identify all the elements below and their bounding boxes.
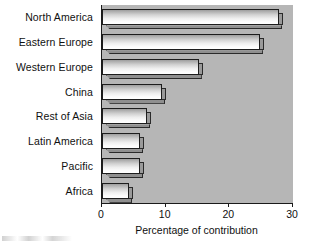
plot-area (101, 5, 293, 203)
category-label-rest-of-asia: Rest of Asia (0, 104, 97, 129)
category-label-latin-america: Latin America (0, 129, 97, 154)
category-label-china: China (0, 79, 97, 104)
bar-eastern-europe (102, 34, 260, 50)
bar-slot (102, 104, 293, 129)
bar-africa (102, 183, 129, 199)
category-label-eastern-europe: Eastern Europe (0, 30, 97, 55)
bar-slot (102, 5, 293, 30)
x-tick-0 (101, 203, 102, 207)
category-label-pacific: Pacific (0, 154, 97, 179)
bar-china (102, 84, 162, 100)
bar-slot (102, 178, 293, 203)
x-tick-20 (228, 203, 229, 207)
category-label-north-america: North America (0, 5, 97, 30)
bar-western-europe (102, 59, 199, 75)
bar-slot (102, 55, 293, 80)
x-tick-10 (165, 203, 166, 207)
chart-figure: North America Eastern Europe Western Eur… (0, 0, 309, 243)
bar-pacific (102, 158, 140, 174)
bar-latin-america (102, 133, 140, 149)
x-tick-label-20: 20 (222, 208, 234, 220)
bar-north-america (102, 9, 279, 25)
bar-series (102, 5, 293, 203)
bar-rest-of-asia (102, 108, 147, 124)
category-label-western-europe: Western Europe (0, 55, 97, 80)
bar-slot (102, 79, 293, 104)
x-tick-label-0: 0 (98, 208, 104, 220)
scan-artifact (2, 236, 72, 241)
category-axis-labels: North America Eastern Europe Western Eur… (0, 5, 97, 203)
x-axis-title: Percentage of contribution (101, 224, 292, 236)
bar-slot (102, 30, 293, 55)
x-tick-30 (292, 203, 293, 207)
x-axis-line (101, 203, 293, 204)
x-tick-label-10: 10 (159, 208, 171, 220)
category-label-africa: Africa (0, 178, 97, 203)
x-tick-label-30: 30 (286, 208, 298, 220)
bar-slot (102, 129, 293, 154)
bar-slot (102, 154, 293, 179)
